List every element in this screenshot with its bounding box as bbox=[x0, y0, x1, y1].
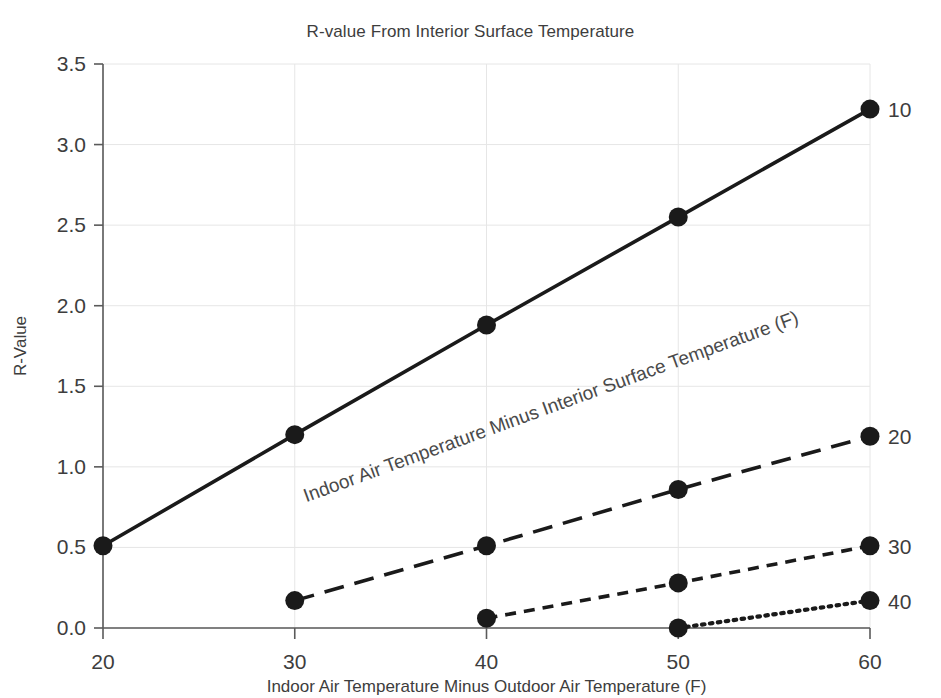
y-axis-title: R-Value bbox=[11, 316, 30, 376]
series-marker-20 bbox=[285, 591, 304, 610]
x-axis-title: Indoor Air Temperature Minus Outdoor Air… bbox=[267, 677, 707, 696]
data-series-40 bbox=[669, 591, 880, 637]
tick-labels-group: 0.00.51.01.52.02.53.03.52030405060 bbox=[57, 52, 882, 673]
x-tick-label: 40 bbox=[475, 650, 498, 673]
series-marker-40 bbox=[669, 619, 688, 638]
y-tick-label: 2.5 bbox=[57, 213, 86, 236]
series-marker-10 bbox=[285, 425, 304, 444]
y-tick-label: 0.0 bbox=[57, 616, 86, 639]
y-tick-label: 3.0 bbox=[57, 133, 86, 156]
y-tick-label: 1.0 bbox=[57, 455, 86, 478]
y-tick-label: 0.5 bbox=[57, 535, 86, 558]
series-marker-20 bbox=[669, 480, 688, 499]
x-tick-label: 60 bbox=[858, 650, 881, 673]
series-marker-20 bbox=[477, 536, 496, 555]
series-marker-10 bbox=[477, 316, 496, 335]
series-marker-40 bbox=[861, 591, 880, 610]
series-end-label-40: 40 bbox=[888, 590, 911, 613]
series-end-label-30: 30 bbox=[888, 535, 911, 558]
series-marker-10 bbox=[94, 536, 113, 555]
axis-titles-group: Indoor Air Temperature Minus Outdoor Air… bbox=[11, 316, 706, 696]
series-marker-10 bbox=[669, 208, 688, 227]
x-tick-label: 50 bbox=[667, 650, 690, 673]
series-end-label-20: 20 bbox=[888, 425, 911, 448]
series-end-labels-group: 10203040 bbox=[888, 98, 911, 612]
x-tick-label: 20 bbox=[91, 650, 114, 673]
line-chart-plot: 0.00.51.01.52.02.53.03.52030405060 Indoo… bbox=[0, 0, 941, 698]
series-marker-30 bbox=[669, 573, 688, 592]
y-tick-label: 1.5 bbox=[57, 374, 86, 397]
series-end-label-10: 10 bbox=[888, 98, 911, 121]
series-marker-30 bbox=[477, 609, 496, 628]
series-marker-20 bbox=[861, 427, 880, 446]
y-tick-label: 3.5 bbox=[57, 52, 86, 75]
series-marker-30 bbox=[861, 536, 880, 555]
y-tick-label: 2.0 bbox=[57, 294, 86, 317]
series-marker-10 bbox=[861, 100, 880, 119]
chart-figure: R-value From Interior Surface Temperatur… bbox=[0, 0, 941, 698]
data-series-20 bbox=[285, 427, 879, 610]
x-tick-label: 30 bbox=[283, 650, 306, 673]
series-line-40 bbox=[678, 601, 870, 628]
